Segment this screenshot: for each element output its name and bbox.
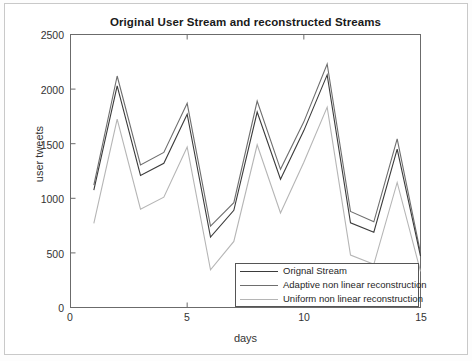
legend-label-uniform: Uniform non linear reconstruction <box>283 294 423 304</box>
legend-item-original: Orignal Stream <box>236 264 418 278</box>
legend-item-uniform: Uniform non linear reconstruction <box>236 292 418 306</box>
legend-swatch-uniform <box>240 299 278 300</box>
series-line <box>94 107 421 271</box>
legend-item-adaptive: Adaptive non linear reconstruction <box>236 278 418 292</box>
y-tick-marks <box>71 89 76 253</box>
legend-label-adaptive: Adaptive non linear reconstruction <box>283 280 427 290</box>
series-line <box>94 64 421 253</box>
legend-swatch-adaptive <box>240 285 278 286</box>
legend-label-original: Orignal Stream <box>283 266 347 276</box>
figure-container: Original User Stream and reconstructed S… <box>0 0 472 361</box>
data-series-layer <box>94 64 421 271</box>
legend-swatch-original <box>240 271 278 272</box>
chart-legend[interactable]: Orignal Stream Adaptive non linear recon… <box>235 263 419 307</box>
